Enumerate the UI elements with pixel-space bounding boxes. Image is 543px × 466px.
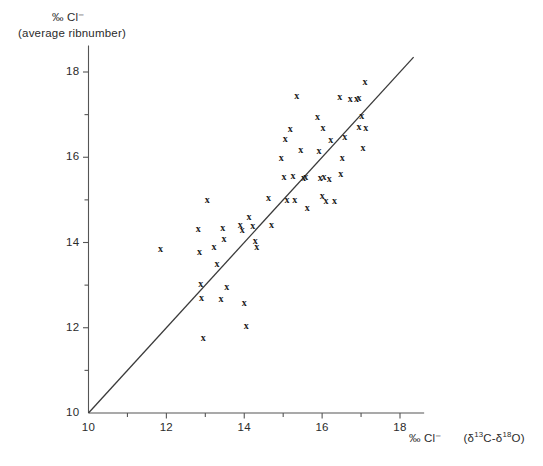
data-point-marker: x [198,278,203,289]
x-axis-label: ‰ Cl⁻(δ13C-δ18O) [404,430,525,445]
data-point-marker: x [197,246,202,257]
data-point-marker: x [266,192,271,203]
data-point-marker: x [357,121,362,132]
data-point-marker: x [196,223,201,234]
data-point-marker: x [303,171,308,182]
data-point-marker: x [254,241,259,252]
data-point-marker: x [338,168,343,179]
x-axis-tick-label: 10 [74,421,104,433]
y-axis-label: ‰ Cl⁻ (average ribnumber) [18,10,126,41]
x-axis-tick-label: 18 [385,421,415,433]
data-point-marker: x [342,131,347,142]
data-point-marker: x [201,332,206,343]
y-axis-tick-label: 16 [49,150,80,162]
x-axis-label-units: ‰ Cl⁻ [409,432,442,444]
x-axis-label-expression: (δ13C-δ18O) [464,432,525,444]
data-point-marker: x [328,134,333,145]
data-point-marker: x [218,293,223,304]
x-axis-tick-label: 14 [229,421,259,433]
data-point-marker: x [332,195,337,206]
data-point-marker: x [240,224,245,235]
data-point-marker: x [290,170,295,181]
data-point-marker: x [315,111,320,122]
data-point-marker: x [340,152,345,163]
data-point-marker: x [158,243,163,254]
data-point-marker: x [205,194,210,205]
data-point-marker: x [320,122,325,133]
y-axis-tick-label: 14 [49,236,80,248]
reference-line [89,57,414,413]
data-point-marker: x [317,145,322,156]
data-point-marker: x [224,281,229,292]
y-axis-label-sub: (average ribnumber) [18,26,126,42]
data-point-marker: x [324,195,329,206]
data-point-marker: x [361,142,366,153]
data-point-marker: x [244,320,249,331]
data-point-marker: x [294,90,299,101]
data-point-marker: x [288,123,293,134]
y-axis-label-units: ‰ Cl⁻ [18,10,126,26]
data-point-marker: x [211,241,216,252]
data-point-marker: x [242,297,247,308]
y-axis-tick-label: 10 [49,406,80,418]
data-point-marker: x [298,144,303,155]
data-point-marker: x [359,110,364,121]
data-point-marker: x [305,202,310,213]
data-point-marker: x [220,222,225,233]
data-point-marker: x [199,292,204,303]
data-point-marker: x [281,171,286,182]
data-point-marker: x [222,233,227,244]
data-point-marker: x [348,93,353,104]
data-point-marker: x [250,220,255,231]
data-point-marker: x [327,173,332,184]
x-axis-tick-label: 12 [151,421,181,433]
plot-canvas: xxxxxxxxxxxxxxxxxxxxxxxxxxxxxxxxxxxxxxxx… [0,0,543,466]
data-point-marker: x [337,91,342,102]
y-axis-tick-label: 18 [49,65,80,77]
scatter-plot-figure: ‰ Cl⁻ (average ribnumber) ‰ Cl⁻(δ13C-δ18… [0,0,543,466]
data-point-marker: x [279,152,284,163]
data-point-marker: x [363,122,368,133]
data-point-marker: x [214,258,219,269]
x-axis-tick-label: 16 [307,421,337,433]
y-axis-tick-label: 12 [49,321,80,333]
data-point-marker: x [362,76,367,87]
data-point-marker: x [283,133,288,144]
data-point-marker: x [285,194,290,205]
data-point-marker: x [269,219,274,230]
data-point-marker: x [292,194,297,205]
data-point-marker: x [357,92,362,103]
